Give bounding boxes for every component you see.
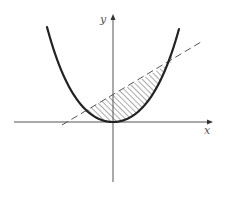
x-axis-label: x: [204, 124, 211, 137]
y-axis-label: y: [99, 13, 107, 26]
diagram-figure: y x: [0, 0, 228, 209]
